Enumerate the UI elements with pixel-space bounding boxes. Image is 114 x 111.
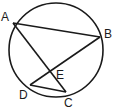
label-a: A [1, 10, 9, 24]
label-b: B [104, 27, 112, 41]
label-c: C [64, 96, 73, 110]
geometry-diagram: A B E D C [0, 0, 114, 111]
segment-bd [30, 37, 100, 85]
segment-ab [13, 23, 100, 37]
label-d: D [19, 88, 28, 102]
circle [9, 3, 103, 97]
label-e: E [56, 68, 64, 82]
